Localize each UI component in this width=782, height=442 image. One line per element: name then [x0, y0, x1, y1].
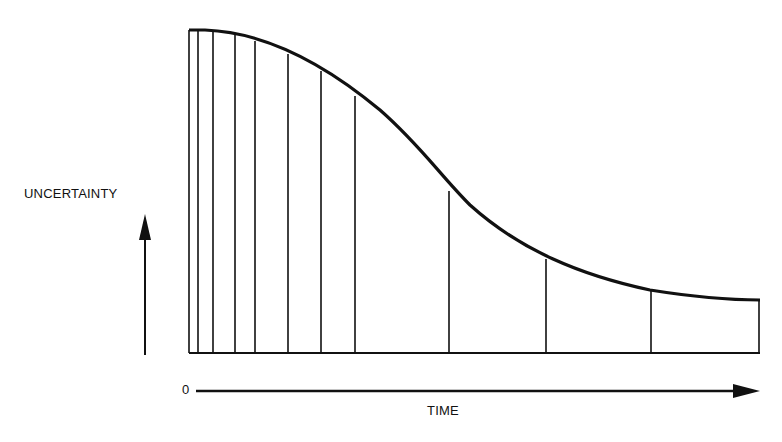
y-axis-label: UNCERTAINTY	[24, 186, 117, 201]
arrow-right-icon	[733, 384, 760, 398]
uncertainty-curve	[189, 30, 760, 300]
interval-lines	[189, 30, 759, 353]
uncertainty-diagram	[0, 0, 782, 442]
x-origin-label: 0	[182, 382, 189, 397]
arrow-up-icon	[139, 214, 151, 240]
x-axis-label: TIME	[427, 403, 459, 418]
